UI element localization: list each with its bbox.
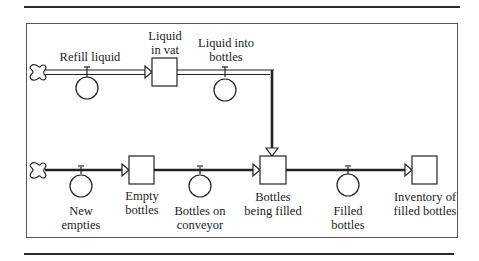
valve-filled-bottles [337, 174, 359, 196]
label-inventory-filled-bottles: Inventory of filled bottles [391, 190, 459, 218]
valve-bottles-on-conveyor [189, 175, 211, 197]
arrowhead-icon [122, 164, 129, 176]
label-filled-bottles: Filled bottles [322, 204, 374, 232]
label-new-empties: New empties [51, 204, 111, 232]
stock-bottles-being-filled [260, 156, 286, 184]
arrowhead-icon [145, 66, 152, 78]
cloud-icon [30, 163, 46, 179]
label-empty-bottles: Empty bottles [116, 189, 168, 217]
stock-liquid-in-vat [152, 58, 177, 86]
arrowhead-icon [253, 164, 260, 176]
stock-empty-bottles [129, 156, 154, 184]
label-refill-liquid: Refill liquid [55, 50, 125, 64]
arrowhead-icon [405, 164, 412, 176]
valve-new-empties [70, 175, 92, 197]
label-bottles-on-conveyor: Bottles on conveyor [168, 204, 232, 232]
valve-refill-liquid [76, 77, 98, 99]
label-bottles-being-filled: Bottles being filled [237, 190, 309, 218]
arrowhead-icon [266, 148, 278, 156]
label-liquid-in-vat: Liquid in vat [140, 29, 190, 57]
label-liquid-into-bottles: Liquid into bottles [190, 36, 262, 64]
stock-inventory-filled-bottles [412, 156, 437, 184]
valve-liquid-into-bottles [214, 79, 236, 101]
cloud-icon [30, 65, 46, 81]
